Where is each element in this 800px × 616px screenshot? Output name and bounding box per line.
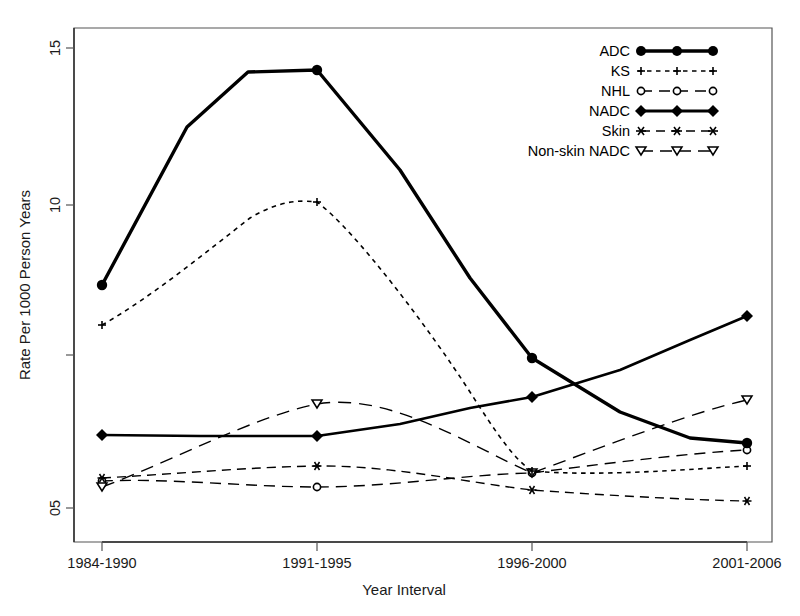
x-tick-label-2001-2006: 2001-2006 bbox=[712, 555, 781, 571]
legend-label-adc: ADC bbox=[599, 43, 630, 59]
legend-label-ks: KS bbox=[611, 63, 630, 79]
legend-label-skin: Skin bbox=[602, 123, 630, 139]
y-axis-title: Rate Per 1000 Person Years bbox=[16, 190, 33, 380]
y-tick-label-05: 05 bbox=[47, 500, 63, 516]
x-tick-label-1984-1990: 1984-1990 bbox=[67, 555, 136, 571]
y-tick-label-10: 10 bbox=[47, 197, 63, 213]
caption-fragment bbox=[0, 602, 800, 616]
chart-figure: 15 10 05 Rate Per 1000 Person Years 1984… bbox=[0, 0, 800, 616]
rate-per-1000-person-years-line-chart: 15 10 05 Rate Per 1000 Person Years 1984… bbox=[0, 0, 800, 616]
legend-label-non-skin-nadc: Non-skin NADC bbox=[528, 143, 630, 159]
y-tick-label-15: 15 bbox=[47, 40, 63, 56]
legend-label-nhl: NHL bbox=[601, 83, 630, 99]
x-tick-label-1996-2000: 1996-2000 bbox=[497, 555, 566, 571]
legend-label-nadc: NADC bbox=[589, 103, 630, 119]
x-tick-label-1991-1995: 1991-1995 bbox=[282, 555, 351, 571]
x-axis-title: Year Interval bbox=[362, 581, 446, 598]
